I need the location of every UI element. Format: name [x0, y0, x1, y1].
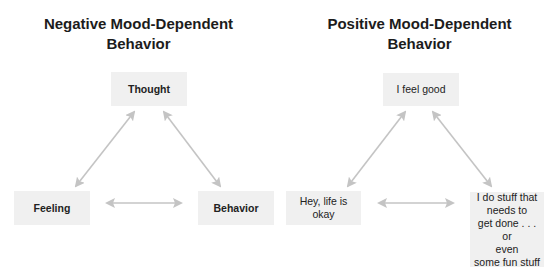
node-do-stuff: I do stuff that needs to get done . . . …: [470, 192, 544, 267]
positive-mood-diagram: Positive Mood-Dependent Behavior I feel …: [280, 0, 559, 278]
node-life-okay: Hey, life is okay: [286, 191, 361, 225]
node-behavior: Behavior: [198, 191, 274, 225]
node-thought: Thought: [111, 72, 187, 106]
node-feel-good: I feel good: [383, 73, 459, 106]
node-feeling: Feeling: [14, 191, 90, 225]
negative-mood-diagram: Negative Mood-Dependent Behavior Thought…: [0, 0, 277, 278]
diagram-title: Positive Mood-Dependent Behavior: [280, 14, 559, 54]
diagram-title: Negative Mood-Dependent Behavior: [0, 14, 277, 54]
